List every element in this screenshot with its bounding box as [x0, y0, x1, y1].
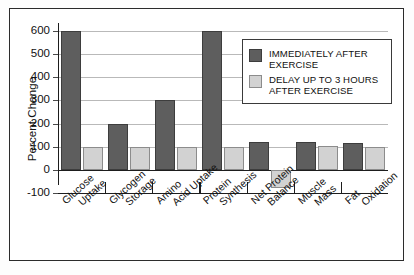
y-axis-tick-label: 500	[10, 47, 50, 59]
x-axis-category-label: GlycogenStorage	[107, 166, 158, 215]
y-axis-tick-label: -100	[10, 186, 50, 198]
gridline	[58, 31, 388, 32]
y-axis-tick-label: 100	[10, 140, 50, 152]
legend-entry-delay: DELAY UP TO 3 HOURS AFTER EXERCISE	[249, 74, 384, 96]
y-axis-line	[58, 23, 59, 185]
legend-swatch-icon-immediately	[249, 49, 262, 62]
category-separator-tick	[341, 182, 342, 193]
chart-figure: Percent Change 6005004003002001000-100 G…	[0, 0, 414, 275]
chart-frame: Percent Change 6005004003002001000-100 G…	[9, 8, 404, 261]
bar	[318, 146, 338, 170]
bar	[83, 147, 103, 170]
legend-swatch-icon-delay	[249, 75, 262, 88]
legend-label-delay: DELAY UP TO 3 HOURS AFTER EXERCISE	[269, 74, 384, 96]
bar	[61, 31, 81, 170]
bar	[296, 142, 316, 170]
y-axis-tick	[53, 193, 58, 194]
y-axis-tick-label: 600	[10, 24, 50, 36]
bar	[249, 142, 269, 170]
y-axis-tick-label: 300	[10, 93, 50, 105]
legend-entry-immediately: IMMEDIATELY AFTER EXERCISE	[249, 48, 384, 70]
bar	[343, 143, 363, 170]
bar	[108, 124, 128, 170]
legend-label-immediately: IMMEDIATELY AFTER EXERCISE	[269, 48, 384, 70]
chart-legend: IMMEDIATELY AFTER EXERCISE DELAY UP TO 3…	[242, 39, 392, 104]
bar	[202, 31, 222, 170]
bar	[130, 147, 150, 170]
y-axis-tick-label: 200	[10, 117, 50, 129]
y-axis-tick-label: 400	[10, 70, 50, 82]
y-axis-tick-label: 0	[10, 163, 50, 175]
x-axis-category-label: GlucoseUptake	[60, 168, 108, 215]
zero-line	[53, 170, 388, 171]
bar	[155, 100, 175, 169]
